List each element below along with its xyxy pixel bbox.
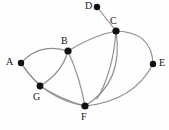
graph-node-a[interactable] <box>18 60 24 66</box>
graph-node-c[interactable] <box>112 27 119 34</box>
graph-node-g[interactable] <box>37 83 44 90</box>
graph-node-b[interactable] <box>64 47 71 54</box>
graph-edge-b-c <box>68 31 116 51</box>
graph-figure: ABCDEFG <box>0 0 169 130</box>
edges-layer <box>21 7 153 106</box>
graph-node-label-b: B <box>61 36 68 46</box>
graph-edge-b-f <box>68 51 85 106</box>
graph-node-d[interactable] <box>94 4 100 10</box>
graph-node-label-f: F <box>81 112 87 122</box>
graph-node-f[interactable] <box>81 102 88 109</box>
graph-edge-c-f <box>85 31 117 106</box>
graph-node-e[interactable] <box>150 61 156 67</box>
graph-edge-g-f <box>40 86 85 106</box>
graph-edge-c-e <box>116 31 153 64</box>
graph-node-label-e: E <box>159 58 165 68</box>
graph-node-label-c: C <box>110 16 117 26</box>
graph-node-label-g: G <box>33 92 40 102</box>
graph-edge-e-f <box>85 64 153 106</box>
graph-edge-a-b <box>21 48 68 63</box>
graph-edge-g-b <box>40 51 68 86</box>
graph-node-label-a: A <box>6 57 13 67</box>
graph-node-label-d: D <box>85 1 92 11</box>
graph-edge-c-f <box>97 31 116 99</box>
